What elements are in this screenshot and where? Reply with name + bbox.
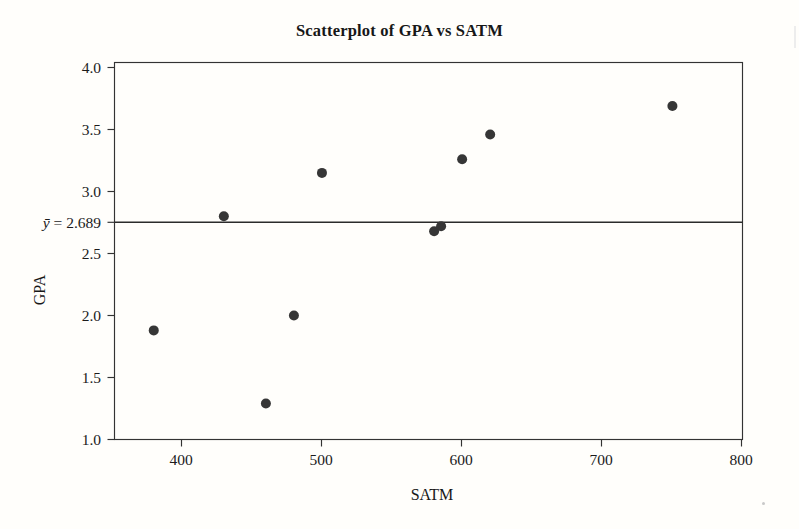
plot-area-svg: 400 500 600 700 800 1.0 1.5 2.0 2.5 3.0 …	[0, 0, 799, 529]
mean-reference-label: ȳ = 2.689	[41, 214, 102, 231]
scatterplot-figure: Scatterplot of GPA vs SATM 400 500 600 7…	[0, 0, 799, 529]
data-point	[149, 325, 159, 335]
data-point	[457, 154, 467, 164]
data-point	[485, 129, 495, 139]
y-axis-ticks	[108, 68, 115, 440]
y-tick-label: 1.0	[82, 431, 102, 448]
y-tick-label: 1.5	[82, 369, 102, 386]
x-tick-label: 500	[309, 451, 333, 468]
plot-frame	[115, 63, 743, 440]
x-tick-label: 400	[169, 451, 193, 468]
data-point	[317, 168, 327, 178]
data-point	[219, 211, 229, 221]
x-axis-ticks	[182, 440, 742, 447]
data-point	[261, 399, 271, 409]
y-tick-label: 3.0	[82, 183, 102, 200]
y-tick-label: 4.0	[82, 59, 102, 76]
x-axis-tick-labels: 400 500 600 700 800	[169, 451, 753, 468]
data-point	[667, 101, 677, 111]
x-tick-label: 600	[449, 451, 473, 468]
x-axis-title: SATM	[411, 486, 454, 503]
svg-text:ȳ = 2.689: ȳ = 2.689	[41, 214, 102, 231]
data-points-layer	[149, 101, 678, 409]
x-tick-label: 800	[729, 451, 753, 468]
scan-speck-artifact	[762, 502, 765, 505]
y-tick-label: 3.5	[82, 121, 102, 138]
y-axis-title: GPA	[31, 274, 48, 305]
data-point	[289, 311, 299, 321]
y-axis-tick-labels: 1.0 1.5 2.0 2.5 3.0 3.5 4.0	[82, 59, 102, 448]
y-tick-label: 2.0	[82, 307, 102, 324]
page-edge-artifact	[794, 26, 796, 48]
mean-equals: =	[50, 214, 67, 231]
data-point	[436, 221, 446, 231]
y-tick-label: 2.5	[82, 245, 102, 262]
x-tick-label: 700	[589, 451, 613, 468]
mean-value: 2.689	[66, 214, 101, 231]
